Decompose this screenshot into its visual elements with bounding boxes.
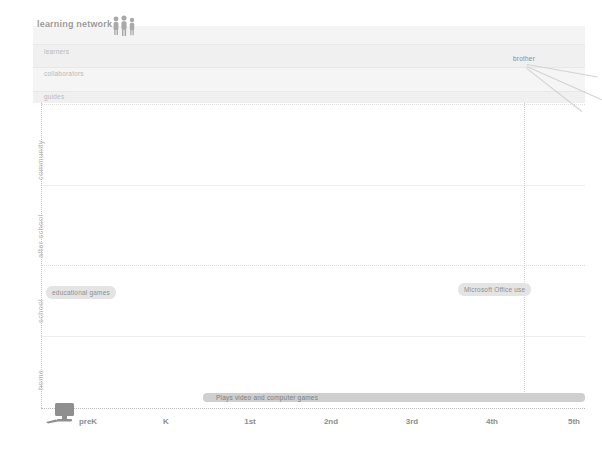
x-axis-tick-1st: 1st (244, 417, 256, 426)
network-row-label-guides: guides (44, 93, 64, 100)
gridline-afterschool-school (41, 265, 585, 266)
three-people-icon (110, 15, 138, 37)
annotation-educational-games[interactable]: educational games (46, 286, 116, 299)
x-axis-tick-5th: 5th (568, 417, 580, 426)
annotation-microsoft-office-use[interactable]: Microsoft Office use (458, 283, 531, 296)
network-row-divider (33, 91, 585, 92)
network-row-label-learners: learners (44, 48, 69, 55)
gridline-community-afterschool (41, 185, 585, 186)
learning-network-band-guides (33, 91, 585, 103)
y-axis-label-after-school: after school (36, 214, 45, 258)
y-axis-label-community: community (36, 140, 45, 180)
x-axis-tick-k: K (163, 417, 169, 426)
network-row-divider (33, 44, 585, 45)
y-axis-label-home: home (36, 370, 45, 390)
gridline-top (41, 104, 585, 105)
computer-monitor-icon (46, 402, 82, 426)
learning-network-band-collaborators (33, 67, 585, 91)
x-axis-tick-4th: 4th (486, 417, 498, 426)
network-row-divider (33, 67, 585, 68)
x-axis-tick-prek: preK (79, 417, 97, 426)
x-axis (41, 408, 585, 409)
y-axis-label-school: school (36, 299, 45, 323)
learning-network-band-learners (33, 44, 585, 67)
node-reference-line (524, 103, 525, 398)
gridline-school-home (41, 336, 585, 337)
page-title: learning network (37, 19, 112, 29)
node-label-brother[interactable]: brother (513, 55, 535, 62)
x-axis-tick-2nd: 2nd (324, 417, 338, 426)
x-axis-tick-3rd: 3rd (406, 417, 418, 426)
network-row-label-collaborators: collaborators (44, 70, 84, 77)
activity-bar-label: Plays video and computer games (216, 394, 318, 401)
